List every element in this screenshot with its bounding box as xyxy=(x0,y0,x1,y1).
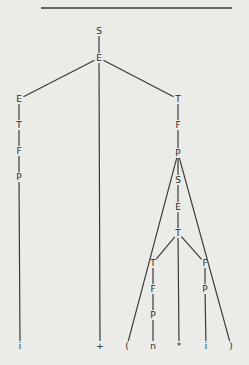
tree-node-label: T xyxy=(149,258,156,268)
parse-tree-diagram: SEETFPi+TFP(SETTFPn*FPi) xyxy=(0,0,249,365)
tree-edge xyxy=(205,294,206,341)
tree-node-label: P xyxy=(202,284,208,294)
tree-edge xyxy=(179,158,229,341)
tree-node-label: F xyxy=(175,120,180,130)
tree-edge xyxy=(99,63,100,341)
tree-node-label: S xyxy=(175,175,181,185)
tree-edges xyxy=(19,36,230,341)
tree-node-label: E xyxy=(16,94,22,104)
tree-node-label: T xyxy=(174,228,181,238)
tree-node-label: T xyxy=(174,94,181,104)
tree-node-label: F xyxy=(202,258,207,268)
tree-edge xyxy=(178,238,179,341)
tree-node-label: * xyxy=(177,341,182,351)
tree-edge xyxy=(23,60,94,96)
tree-edge xyxy=(181,237,201,260)
tree-node-label: T xyxy=(15,120,22,130)
tree-node-label: n xyxy=(150,341,156,351)
tree-node-label: P xyxy=(175,148,181,158)
tree-node-label: ( xyxy=(125,341,129,351)
tree-node-label: ) xyxy=(229,341,233,351)
tree-node-label: E xyxy=(175,202,181,212)
tree-node-label: E xyxy=(96,53,102,63)
tree-node-label: F xyxy=(16,146,21,156)
tree-node-label: S xyxy=(96,26,102,36)
tree-edge xyxy=(156,237,175,259)
tree-node-label: + xyxy=(96,341,104,351)
tree-node-label: i xyxy=(19,341,22,351)
tree-node-label: P xyxy=(150,310,156,320)
tree-node-label: i xyxy=(205,341,208,351)
tree-node-label: F xyxy=(150,284,155,294)
tree-edge xyxy=(19,182,20,341)
tree-nodes: SEETFPi+TFP(SETTFPn*FPi) xyxy=(15,26,233,351)
tree-node-label: P xyxy=(16,172,22,182)
tree-edge xyxy=(103,60,173,96)
